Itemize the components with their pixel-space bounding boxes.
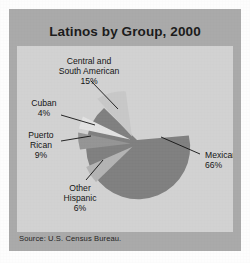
pie-label-puerto-rican-value: 9%: [35, 150, 48, 160]
pie-chart: Central and South American 15% Cuban 4% …: [17, 46, 233, 232]
pie-slice-mexican[interactable]: [86, 108, 190, 199]
chart-title: Latinos by Group, 2000: [9, 24, 241, 39]
pie-label-cuban-value: 4%: [38, 108, 51, 118]
pie-label-puerto-rican-line1: Puerto: [28, 130, 54, 140]
pie-label-mexican-value: 66%: [205, 160, 223, 170]
chart-source-caption: Source: U.S. Census Bureau.: [19, 234, 121, 243]
pie-label-cuban-line1: Cuban: [31, 98, 57, 108]
pie-label-central-south-american-value: 15%: [80, 76, 98, 86]
chart-screenshot: Latinos by Group, 2000 Central and South…: [0, 0, 250, 263]
pie-label-other-hispanic-line1: Other: [69, 183, 91, 193]
pie-label-central-south-american-line1: Central and: [67, 56, 112, 66]
pie-label-mexican-line1: Mexican: [205, 150, 233, 160]
pie-label-other-hispanic-line2: Hispanic: [64, 193, 98, 203]
pie-label-other-hispanic-value: 6%: [74, 203, 87, 213]
chart-plot-panel: Central and South American 15% Cuban 4% …: [17, 46, 233, 232]
pie-label-puerto-rican-line2: Rican: [30, 140, 52, 150]
pie-label-central-south-american-line2: South American: [59, 66, 120, 76]
